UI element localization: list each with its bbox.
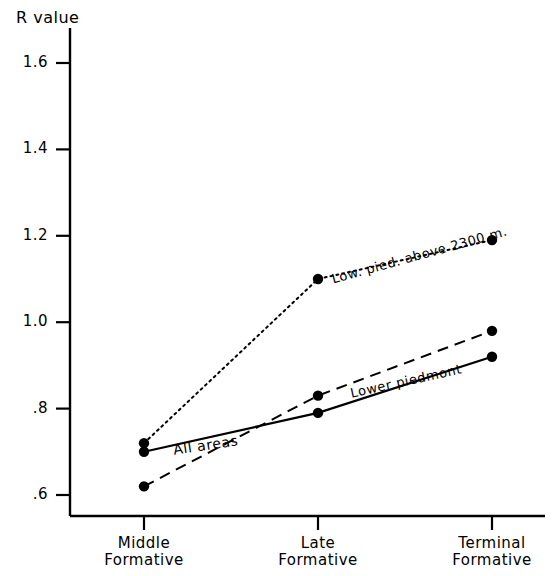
data-point-marker[interactable] [313,390,323,400]
data-point-marker[interactable] [313,274,323,284]
data-point-marker[interactable] [487,352,497,362]
data-series [139,235,497,492]
data-point-marker[interactable] [487,326,497,336]
series-line-1 [144,357,492,452]
data-point-marker[interactable] [139,447,149,457]
data-point-marker[interactable] [139,481,149,491]
chart-figure: R value .6.81.01.21.41.6 MiddleFormative… [0,0,560,576]
y-axis-ticks [56,63,70,495]
x-axis-ticks [144,516,492,530]
data-point-marker[interactable] [487,235,497,245]
data-point-marker[interactable] [313,408,323,418]
plot-area [0,0,560,576]
